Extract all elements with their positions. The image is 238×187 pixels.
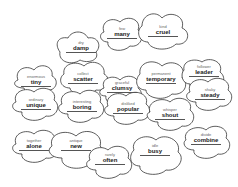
answer-line	[146, 83, 176, 84]
answer-line	[113, 113, 143, 114]
answer-line	[61, 150, 91, 151]
answer-word: popular	[106, 106, 150, 113]
answer-word: often	[88, 157, 132, 164]
answer-line	[67, 111, 97, 112]
bubble-new: antique new	[54, 138, 98, 151]
answer-line	[155, 119, 185, 120]
bubble-scatter: collect scatter	[61, 71, 105, 84]
answer-line	[68, 83, 98, 84]
answer-word: leader	[182, 69, 226, 76]
bubble-shout: whisper shout	[148, 107, 192, 120]
answer-line	[19, 150, 49, 151]
answer-word: clumsy	[100, 85, 144, 92]
bubble-often: rarely often	[88, 152, 132, 165]
answer-word: boring	[60, 104, 104, 111]
answer-line	[21, 109, 51, 110]
answer-word: many	[100, 31, 144, 38]
bubble-boring: interesting boring	[60, 99, 104, 112]
bubble-busy: idle busy	[133, 143, 177, 156]
answer-word: cruel	[141, 29, 185, 36]
bubble-popular: disliked popular	[106, 101, 150, 114]
antonym-cloud-diagram: dry damp few many kind cruel enormous ti…	[0, 0, 238, 187]
answer-word: tiny	[14, 79, 58, 86]
answer-word: steady	[188, 92, 232, 99]
answer-word: scatter	[61, 76, 105, 83]
answer-word: damp	[59, 45, 103, 52]
answer-line	[66, 52, 96, 53]
bubble-alone: together alone	[12, 138, 56, 151]
bubble-combine: divide combine	[184, 132, 228, 145]
bubble-damp: dry damp	[59, 40, 103, 53]
answer-line	[189, 76, 219, 77]
answer-line	[21, 86, 51, 87]
answer-line	[148, 36, 178, 37]
bubble-cruel: kind cruel	[141, 24, 185, 37]
answer-line	[107, 38, 137, 39]
answer-word: busy	[133, 148, 177, 155]
answer-word: temporary	[139, 76, 183, 83]
answer-word: new	[54, 143, 98, 150]
bubble-steady: shaky steady	[188, 87, 232, 100]
answer-line	[95, 164, 125, 165]
answer-line	[140, 155, 170, 156]
bubble-unique: ordinary unique	[14, 97, 58, 110]
bubble-tiny: enormous tiny	[14, 74, 58, 87]
answer-line	[195, 99, 225, 100]
answer-word: unique	[14, 102, 58, 109]
bubble-clumsy: graceful clumsy	[100, 80, 144, 93]
bubble-leader: follower leader	[182, 64, 226, 77]
bubble-temporary: permanent temporary	[139, 71, 183, 84]
answer-line	[191, 144, 221, 145]
answer-line	[107, 92, 137, 93]
answer-word: alone	[12, 143, 56, 150]
answer-word: combine	[184, 137, 228, 144]
answer-word: shout	[148, 112, 192, 119]
bubble-many: few many	[100, 26, 144, 39]
